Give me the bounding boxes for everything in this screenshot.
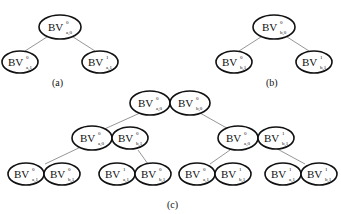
svg-text:BV: BV [138, 97, 153, 109]
node-c-root-b: BV 0 b,0 [170, 91, 210, 115]
edge [70, 35, 95, 51]
svg-text:BV: BV [118, 132, 133, 144]
svg-text:BV: BV [14, 168, 29, 180]
node-a-child-0: BV 0 a,1 [2, 51, 38, 73]
svg-text:BV: BV [226, 132, 241, 144]
panel-c: BV 0 a,0 BV 0 b,0 BV 0 a,0 BV 0 b,1 BV 0 [8, 91, 337, 211]
svg-text:BV: BV [8, 56, 23, 68]
svg-text:BV: BV [48, 21, 63, 33]
node-c-l2-0-a: BV 0 a,1 [8, 163, 44, 185]
node-c-l1-right-b: BV 1 b,1 [258, 127, 294, 149]
svg-text:BV: BV [302, 56, 317, 68]
svg-text:BV: BV [141, 168, 156, 180]
node-c-l2-2-a: BV 0 a,1 [179, 163, 215, 185]
node-c-l1-right-a: BV 0 a,0 [218, 126, 258, 150]
edge [138, 150, 148, 164]
svg-text:BV: BV [271, 168, 286, 180]
panel-a: BV 0 a,0 BV 0 a,1 BV 1 a,1 (a) [2, 15, 118, 89]
node-b-child-1: BV 1 b,1 [296, 51, 332, 73]
svg-text:BV: BV [307, 168, 322, 180]
node-c-l2-3-b: BV 1 b,1 [301, 163, 337, 185]
node-c-l2-1-b: BV 0 b,1 [135, 163, 171, 185]
node-c-root-a: BV 0 a,0 [130, 91, 170, 115]
svg-text:BV: BV [178, 97, 193, 109]
svg-text:BV: BV [80, 132, 95, 144]
node-a-root: BV 0 a,0 [39, 15, 81, 39]
svg-text:BV: BV [221, 168, 236, 180]
svg-text:BV: BV [185, 168, 200, 180]
node-c-l2-2-b: BV 1 b,1 [215, 163, 251, 185]
node-c-l2-1-a: BV 1 a,1 [99, 163, 135, 185]
bvh-tree-diagram: BV 0 a,0 BV 0 a,1 BV 1 a,1 (a) BV 0 b,0 [0, 0, 341, 214]
caption-c: (c) [167, 199, 178, 211]
node-c-l1-left-b: BV 0 b,1 [112, 127, 148, 149]
svg-text:BV: BV [105, 168, 120, 180]
edge [284, 35, 309, 51]
edge [239, 35, 264, 51]
node-c-l2-3-a: BV 1 a,1 [265, 163, 301, 185]
node-c-l1-left-a: BV 0 a,0 [72, 126, 112, 150]
node-b-root: BV 0 b,0 [253, 15, 295, 39]
caption-a: (a) [52, 77, 63, 89]
svg-text:BV: BV [262, 21, 277, 33]
edge [25, 35, 50, 51]
svg-text:BV: BV [222, 56, 237, 68]
svg-text:BV: BV [264, 132, 279, 144]
node-a-child-1: BV 1 a,1 [82, 51, 118, 73]
svg-text:BV: BV [88, 56, 103, 68]
panel-b: BV 0 b,0 BV 0 b,1 BV 1 b,1 (b) [216, 15, 332, 89]
node-b-child-0: BV 0 b,1 [216, 51, 252, 73]
svg-text:BV: BV [50, 168, 65, 180]
caption-b: (b) [266, 77, 278, 89]
edge [210, 150, 230, 164]
node-c-l2-0-b: BV 0 b,1 [44, 163, 80, 185]
